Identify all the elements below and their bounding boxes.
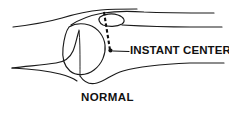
patella: [99, 14, 124, 26]
tibia-shaft-inferior-cortex: [12, 68, 77, 81]
instant-center-label: INSTANT CENTER: [130, 45, 229, 57]
instant-center-leader-line: [113, 51, 129, 52]
figure-caption-normal: NORMAL: [81, 92, 134, 104]
quadriceps-patellar-tendon-line: [71, 11, 214, 25]
femoral-condyle: [63, 24, 105, 75]
knee-joint-diagram: [0, 0, 229, 138]
femur-shaft-inferior-cortex: [12, 31, 79, 68]
tibial-plateau: [80, 63, 224, 84]
tibia-shaft-superior-cortex: [122, 25, 222, 27]
instant-center-dot: [108, 48, 112, 52]
knee-instant-center-figure: INSTANT CENTER NORMAL: [0, 0, 229, 138]
intercondylar-notch: [79, 30, 80, 76]
